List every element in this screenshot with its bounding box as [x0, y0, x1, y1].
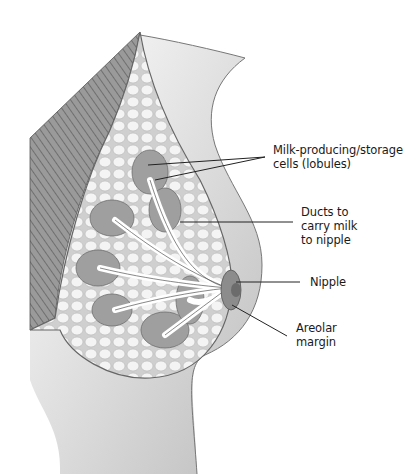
label-line: Ducts to [301, 205, 357, 219]
breast-anatomy-diagram: Milk-producing/storage cells (lobules) D… [0, 0, 417, 474]
label-areolar-margin: Areolar margin [296, 321, 337, 349]
label-line: to nipple [301, 233, 357, 247]
label-lobules: Milk-producing/storage cells (lobules) [273, 143, 403, 171]
label-ducts: Ducts to carry milk to nipple [301, 205, 357, 247]
label-line: carry milk [301, 219, 357, 233]
label-line: margin [296, 335, 337, 349]
label-line: cells (lobules) [273, 157, 403, 171]
label-nipple: Nipple [310, 275, 346, 289]
label-line: Milk-producing/storage [273, 143, 403, 157]
label-line: Nipple [310, 275, 346, 289]
nipple [231, 283, 241, 297]
label-line: Areolar [296, 321, 337, 335]
